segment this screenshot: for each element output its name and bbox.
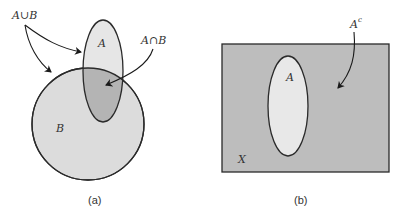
caption-b: (b) <box>294 194 307 206</box>
caption-a: (a) <box>88 194 101 206</box>
intersection-label: A∩B <box>140 34 166 47</box>
set-a-label: A <box>97 37 106 50</box>
complement-superscript: c <box>358 16 362 24</box>
set-b-label: B <box>55 122 64 135</box>
union-arrow-to-a <box>25 25 81 52</box>
complement-label: A <box>349 18 358 31</box>
union-arrow-to-b <box>25 25 51 72</box>
panel-a: A B A∪B A∩B (a) <box>11 9 166 206</box>
venn-diagrams: A B A∪B A∩B (a) A X A c (b) <box>0 0 397 216</box>
union-label: A∪B <box>11 9 37 22</box>
set-a-label-b: A <box>285 71 294 84</box>
panel-b: A X A c (b) <box>222 16 389 206</box>
universe-label: X <box>237 153 247 166</box>
